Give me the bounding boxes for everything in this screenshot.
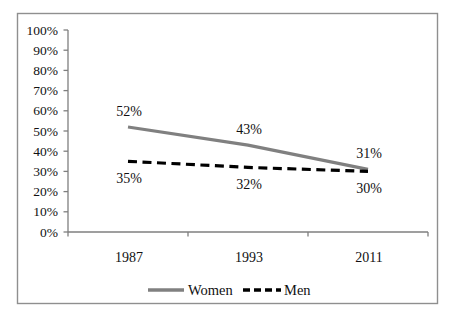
- x-tick-label: 2011: [355, 250, 382, 265]
- x-tick-label: 1987: [115, 250, 143, 265]
- y-tick-label: 20%: [33, 184, 58, 199]
- y-tick-label: 30%: [33, 164, 58, 179]
- legend-men-label: Men: [284, 282, 311, 298]
- chart-figure: 0%10%20%30%40%50%60%70%80%90%100% 198719…: [0, 0, 451, 318]
- y-tick-label: 50%: [33, 124, 58, 139]
- y-tick-label: 100%: [27, 23, 59, 38]
- y-tick-label: 40%: [33, 144, 58, 159]
- y-tick-label: 80%: [33, 63, 58, 78]
- y-tick-label: 0%: [40, 225, 58, 240]
- men-data-label: 30%: [356, 181, 382, 196]
- women-data-label: 43%: [236, 122, 262, 137]
- men-data-label: 35%: [116, 171, 142, 186]
- y-tick-label: 60%: [33, 103, 58, 118]
- women-data-label: 52%: [116, 104, 142, 119]
- x-tick-label: 1993: [235, 250, 263, 265]
- line-chart: 0%10%20%30%40%50%60%70%80%90%100% 198719…: [0, 0, 451, 318]
- legend-women-label: Women: [188, 282, 233, 298]
- y-tick-label: 10%: [33, 204, 58, 219]
- men-data-label: 32%: [236, 177, 262, 192]
- y-tick-label: 90%: [33, 43, 58, 58]
- women-data-label: 31%: [356, 146, 382, 161]
- y-tick-label: 70%: [33, 83, 58, 98]
